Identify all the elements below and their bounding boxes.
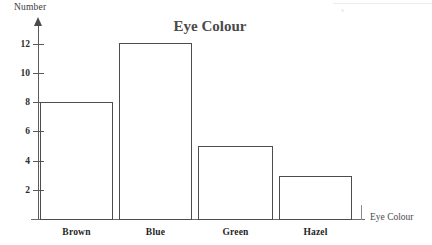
y-tick-label-2-wrap: 2 xyxy=(0,185,30,196)
x-axis-end-tick xyxy=(361,205,362,220)
y-tick-label-4: 4 xyxy=(0,156,30,166)
chart-title: Eye Colour xyxy=(150,18,270,35)
bar-brown xyxy=(40,102,113,220)
bar-green xyxy=(198,146,273,220)
y-tick-label-12-wrap: 12 xyxy=(0,39,30,50)
bar-blue xyxy=(119,43,192,220)
y-tick-label-10-wrap: 10 xyxy=(0,68,30,79)
y-tick-10 xyxy=(33,73,44,74)
y-axis-title: Number xyxy=(14,2,46,12)
x-category-label-blue: Blue xyxy=(119,227,192,237)
y-tick-label-12: 12 xyxy=(0,39,30,49)
x-category-label-green: Green xyxy=(198,227,273,237)
y-tick-label-10: 10 xyxy=(0,68,30,78)
x-category-label-hazel: Hazel xyxy=(279,227,352,237)
x-axis-title: Eye Colour xyxy=(370,212,414,222)
y-tick-label-6-wrap: 6 xyxy=(0,126,30,137)
y-tick-label-8: 8 xyxy=(0,97,30,107)
bar-chart-figure: Eye Colour Number 2 4 6 8 10 12 xyxy=(0,0,432,245)
y-tick-label-4-wrap: 4 xyxy=(0,156,30,167)
y-axis-arrowhead-icon xyxy=(34,17,42,26)
y-tick-label-6: 6 xyxy=(0,126,30,136)
y-tick-label-8-wrap: 8 xyxy=(0,97,30,108)
y-tick-12 xyxy=(33,44,44,45)
x-category-label-brown: Brown xyxy=(40,227,113,237)
bar-hazel xyxy=(279,176,352,220)
plot-area: Eye Colour Number 2 4 6 8 10 12 xyxy=(0,0,432,245)
y-tick-label-2: 2 xyxy=(0,185,30,195)
